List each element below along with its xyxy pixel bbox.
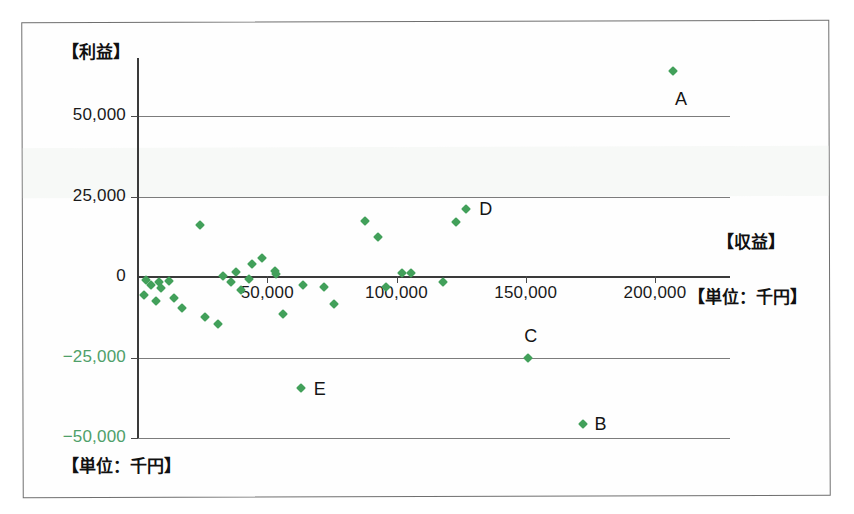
- data-point-E: [296, 383, 306, 393]
- data-point-D: [461, 204, 471, 214]
- point-label-D: D: [479, 199, 492, 220]
- data-point: [140, 290, 150, 300]
- data-point: [247, 259, 257, 269]
- scanned-page: 50,00025,0000−25,000−50,00050,000100,000…: [0, 0, 854, 514]
- y-tick-label-3: −25,000: [30, 347, 126, 367]
- y-tickmark-3: [131, 358, 138, 359]
- point-label-E: E: [314, 379, 326, 400]
- data-point: [319, 282, 329, 292]
- y-tick-label-0: 50,000: [30, 105, 126, 125]
- gridline-y-4: [138, 438, 730, 439]
- y-tick-label-2: 0: [30, 266, 126, 286]
- data-point: [451, 217, 461, 227]
- y-tickmark-1: [131, 197, 138, 198]
- x-unit-note: 【単位：千円】: [688, 283, 807, 308]
- scatter-plot-area: 50,00025,0000−25,000−50,00050,000100,000…: [0, 0, 854, 514]
- data-point: [177, 303, 187, 313]
- data-point: [373, 232, 383, 242]
- data-point-B: [578, 419, 588, 429]
- data-point: [200, 312, 210, 322]
- x-tickmark-1: [267, 276, 268, 283]
- x-tick-label-2: 100,000: [352, 283, 442, 303]
- x-tickmark-3: [526, 276, 527, 283]
- y-axis-title: 【利益】: [62, 38, 130, 63]
- y-tick-label-1: 25,000: [30, 186, 126, 206]
- point-label-B: B: [595, 414, 607, 435]
- y-tick-label-4: −50,000: [30, 427, 126, 447]
- data-point: [195, 221, 205, 231]
- data-point: [257, 253, 267, 263]
- data-point-A: [668, 66, 678, 76]
- gridline-y-1: [138, 197, 730, 198]
- y-tickmark-4: [131, 438, 138, 439]
- data-point: [169, 293, 179, 303]
- data-point: [330, 299, 340, 309]
- x-tickmark-4: [655, 276, 656, 283]
- data-point: [361, 216, 371, 226]
- data-point: [156, 283, 166, 293]
- point-label-C: C: [524, 326, 537, 347]
- y-tickmark-0: [131, 116, 138, 117]
- gridline-y-3: [138, 358, 730, 359]
- x-tick-label-3: 150,000: [481, 283, 571, 303]
- bottom-unit-note: 【単位：千円】: [62, 452, 181, 477]
- x-axis-title: 【収益】: [717, 228, 785, 253]
- data-point: [151, 296, 161, 306]
- data-point: [278, 309, 288, 319]
- x-tick-label-4: 200,000: [610, 283, 700, 303]
- data-point: [213, 319, 223, 329]
- x-tickmark-2: [397, 276, 398, 283]
- gridline-y-0: [138, 116, 730, 117]
- point-label-A: A: [675, 89, 687, 110]
- data-point-C: [523, 353, 533, 363]
